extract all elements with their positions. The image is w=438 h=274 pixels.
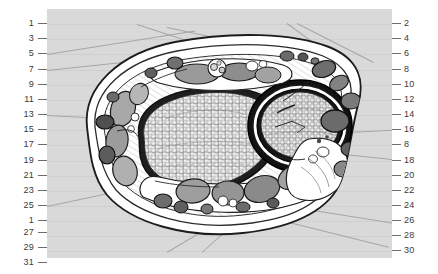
label-number[interactable]: 1 [12, 216, 34, 225]
label-tick [38, 23, 47, 24]
label-tick [392, 220, 401, 221]
cross-section-illustration [47, 9, 392, 258]
label-tick [392, 175, 401, 176]
label-tick [392, 144, 401, 145]
label-tick [392, 205, 401, 206]
label-number[interactable]: 6 [404, 49, 426, 58]
label-number[interactable]: 25 [12, 201, 34, 210]
label-number[interactable]: 10 [404, 80, 426, 89]
label-tick [38, 247, 47, 248]
label-number[interactable]: 4 [404, 34, 426, 43]
label-tick [392, 190, 401, 191]
label-tick [38, 114, 47, 115]
label-tick [38, 84, 47, 85]
label-number[interactable]: 24 [404, 201, 426, 210]
label-number[interactable]: 31 [12, 258, 34, 267]
figure-root: 1 3 5 7 9 11 13 15 17 19 21 23 25 1 27 2… [0, 0, 438, 274]
label-tick [392, 129, 401, 130]
label-tick [38, 262, 47, 263]
label-tick [392, 84, 401, 85]
label-number[interactable]: 12 [404, 95, 426, 104]
neurovascular-bundle-anterior [208, 59, 226, 77]
label-number[interactable]: 1 [12, 19, 34, 28]
label-tick [392, 235, 401, 236]
label-number[interactable]: 29 [12, 243, 34, 252]
label-tick [392, 114, 401, 115]
label-tick [392, 99, 401, 100]
label-number[interactable]: 27 [12, 228, 34, 237]
label-number[interactable]: 9 [12, 80, 34, 89]
label-tick [38, 144, 47, 145]
label-number[interactable]: 22 [404, 186, 426, 195]
label-tick [392, 69, 401, 70]
label-tick [38, 232, 47, 233]
label-number[interactable]: 8 [404, 140, 426, 149]
label-tick [38, 53, 47, 54]
label-tick [392, 23, 401, 24]
label-tick [38, 129, 47, 130]
label-number[interactable]: 3 [12, 34, 34, 43]
label-tick [38, 160, 47, 161]
label-number[interactable]: 5 [12, 49, 34, 58]
label-number[interactable]: 13 [12, 110, 34, 119]
label-number[interactable]: 11 [12, 95, 34, 104]
label-number[interactable]: 30 [404, 246, 426, 255]
label-number[interactable]: 23 [12, 186, 34, 195]
label-number[interactable]: 19 [12, 156, 34, 165]
label-number[interactable]: 20 [404, 171, 426, 180]
label-number[interactable]: 15 [12, 125, 34, 134]
label-tick [392, 250, 401, 251]
label-number[interactable]: 18 [404, 156, 426, 165]
label-tick [38, 38, 47, 39]
label-number[interactable]: 14 [404, 110, 426, 119]
label-number[interactable]: 17 [12, 140, 34, 149]
label-tick [38, 190, 47, 191]
label-tick [392, 53, 401, 54]
label-tick [38, 99, 47, 100]
label-tick [38, 220, 47, 221]
label-tick [392, 160, 401, 161]
label-number[interactable]: 28 [404, 231, 426, 240]
label-tick [38, 205, 47, 206]
illustration-panel [47, 9, 392, 258]
label-tick [38, 175, 47, 176]
label-number[interactable]: 2 [404, 19, 426, 28]
label-number[interactable]: 21 [12, 171, 34, 180]
label-tick [392, 38, 401, 39]
label-number[interactable]: 7 [12, 65, 34, 74]
label-number[interactable]: 26 [404, 216, 426, 225]
label-tick [38, 69, 47, 70]
label-number[interactable]: 8 [404, 65, 426, 74]
label-number[interactable]: 16 [404, 125, 426, 134]
